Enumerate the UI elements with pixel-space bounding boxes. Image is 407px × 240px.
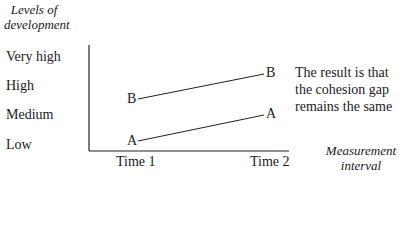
series-b-end-label: B [266,65,275,81]
x-tick-time-2: Time 2 [250,154,290,170]
note-line2: the cohesion gap [295,81,392,98]
x-tick-time-1: Time 1 [116,154,156,170]
series-a-end-label: A [266,106,276,122]
x-axis-title-line2: interval [320,158,402,173]
series-a-start-label: A [127,133,137,149]
result-note: The result is that the cohesion gap rema… [295,64,392,115]
x-axis-title-line1: Measurement [320,143,402,158]
x-axis-title: Measurement interval [320,143,402,173]
series-a-line [138,115,264,141]
note-line3: remains the same [295,98,392,115]
note-line1: The result is that [295,64,392,81]
series-b-start-label: B [127,91,136,107]
series-b-line [138,74,264,99]
